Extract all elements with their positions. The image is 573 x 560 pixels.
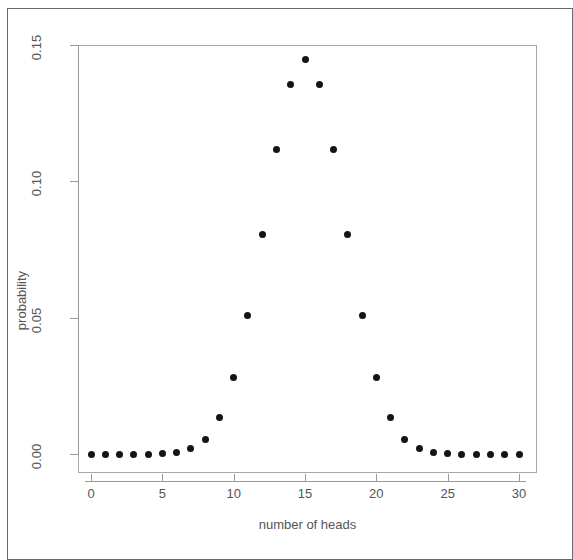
- y-axis-tick: [70, 45, 78, 46]
- x-axis-tick-label: 10: [214, 486, 254, 501]
- x-axis-tick-label: 30: [499, 486, 539, 501]
- data-point: [387, 414, 394, 421]
- data-point: [344, 231, 351, 238]
- x-axis-tick: [305, 474, 306, 482]
- y-axis-tick-label: 0.00: [14, 447, 60, 461]
- x-axis-tick-label: 25: [428, 486, 468, 501]
- x-axis-tick-label: 0: [71, 486, 111, 501]
- data-point: [130, 451, 137, 458]
- data-point: [102, 451, 109, 458]
- y-axis-tick-label: 0.15: [14, 38, 60, 52]
- data-point: [302, 56, 309, 63]
- y-axis-tick: [70, 181, 78, 182]
- data-point: [359, 312, 366, 319]
- data-point: [487, 451, 494, 458]
- data-point: [287, 81, 294, 88]
- data-point: [516, 451, 523, 458]
- y-axis-tick-label: 0.10: [14, 174, 60, 188]
- data-point: [458, 451, 465, 458]
- plot-data-area: [78, 45, 537, 473]
- data-point: [273, 146, 280, 153]
- y-axis-title-text: probability: [15, 270, 30, 329]
- x-axis-tick-label: 15: [285, 486, 325, 501]
- data-point: [330, 146, 337, 153]
- data-point: [373, 374, 380, 381]
- data-point: [259, 231, 266, 238]
- data-point: [216, 414, 223, 421]
- y-axis-tick: [70, 454, 78, 455]
- x-axis-tick-label: 20: [356, 486, 396, 501]
- data-point: [401, 436, 408, 443]
- x-axis-tick: [448, 474, 449, 482]
- x-axis-tick: [162, 474, 163, 482]
- data-point: [230, 374, 237, 381]
- data-point: [316, 81, 323, 88]
- data-point: [473, 451, 480, 458]
- data-point: [173, 449, 180, 456]
- data-point: [444, 450, 451, 457]
- x-axis-tick: [91, 474, 92, 482]
- data-point: [187, 445, 194, 452]
- y-axis-tick: [70, 318, 78, 319]
- data-point: [145, 451, 152, 458]
- data-point: [116, 451, 123, 458]
- data-point: [430, 449, 437, 456]
- x-axis-tick: [376, 474, 377, 482]
- data-point: [244, 312, 251, 319]
- data-point: [416, 445, 423, 452]
- x-axis-tick-label: 5: [142, 486, 182, 501]
- data-point: [88, 451, 95, 458]
- x-axis-tick: [519, 474, 520, 482]
- data-point: [202, 436, 209, 443]
- data-point: [501, 451, 508, 458]
- x-axis-title: number of heads: [78, 517, 537, 532]
- data-point: [159, 450, 166, 457]
- x-axis-tick: [234, 474, 235, 482]
- y-axis-title: probability: [8, 255, 36, 345]
